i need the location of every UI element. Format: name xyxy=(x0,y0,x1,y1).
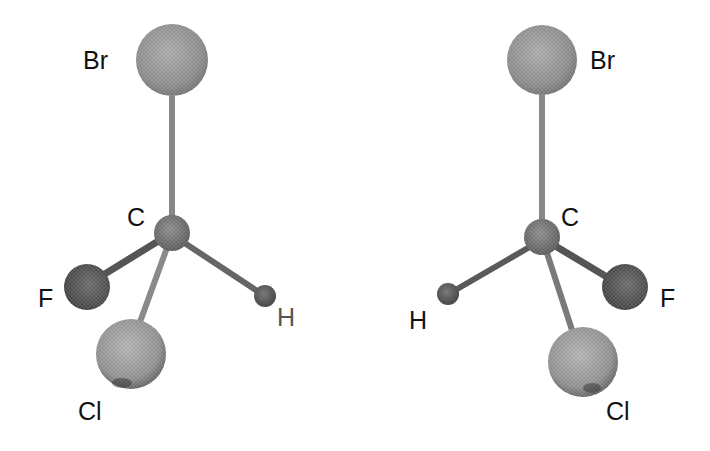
label-cl: Cl xyxy=(78,397,102,425)
label-br: Br xyxy=(590,46,615,74)
atom-cl xyxy=(96,319,166,389)
label-f: F xyxy=(38,284,53,312)
atom-h xyxy=(437,283,459,305)
label-cl: Cl xyxy=(606,397,630,425)
atom-cl xyxy=(548,327,618,397)
label-h: H xyxy=(409,306,427,334)
atom-f xyxy=(602,264,648,310)
right-molecule: Br C F H Cl xyxy=(409,25,675,425)
label-c: C xyxy=(127,203,145,231)
bond-c-h xyxy=(452,245,533,292)
bond-c-h xyxy=(180,240,262,294)
bond-c-cl xyxy=(140,245,168,322)
bond-c-cl xyxy=(546,250,572,330)
atom-h xyxy=(254,285,276,307)
enantiomer-diagram: Br C F H Cl Br xyxy=(0,0,710,451)
bond-c-f xyxy=(552,244,612,280)
atom-br xyxy=(136,24,208,96)
atom-f xyxy=(64,264,110,310)
label-f: F xyxy=(660,284,675,312)
label-h: H xyxy=(277,303,295,331)
label-c: C xyxy=(561,203,579,231)
label-br: Br xyxy=(83,46,108,74)
atom-c xyxy=(154,215,190,251)
atom-c xyxy=(524,219,560,255)
left-molecule: Br C F H Cl xyxy=(38,24,295,425)
atom-br xyxy=(507,25,577,95)
